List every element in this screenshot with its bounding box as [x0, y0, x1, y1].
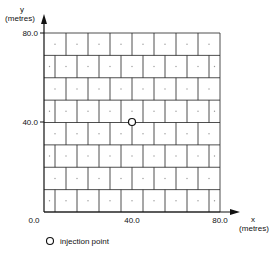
cell-centre-dot [208, 178, 209, 179]
legend-open-circle-icon [47, 238, 54, 245]
cell-centre-dot [49, 155, 50, 156]
x-tick-label-40: 40.0 [124, 216, 140, 225]
cell-centre-dot [87, 111, 88, 112]
cell-centre-dot [131, 66, 132, 67]
cell-centre-dot [208, 133, 209, 134]
cell-centre-dot [109, 200, 110, 201]
cell-centre-dot [120, 88, 121, 89]
cell-centre-dot [214, 111, 215, 112]
y-axis-label: y [20, 5, 24, 14]
cell-centre-dot [109, 66, 110, 67]
cell-centre-dot [153, 66, 154, 67]
cell-centre-dot [164, 178, 165, 179]
x-tick-label-0: 0.0 [28, 216, 40, 225]
legend-label: injection point [60, 237, 110, 246]
cell-centre-dot [175, 200, 176, 201]
y-tick-label-80: 80.0 [22, 29, 38, 38]
y-axis-arrow-icon [41, 14, 47, 24]
cell-centre-dot [49, 66, 50, 67]
cell-centre-dot [109, 111, 110, 112]
cell-centre-dot [142, 133, 143, 134]
cell-centre-dot [214, 66, 215, 67]
cell-centre-dot [175, 155, 176, 156]
cell-centre-dot [186, 88, 187, 89]
cell-centre-dot [164, 43, 165, 44]
cell-centre-dot [197, 66, 198, 67]
cell-centre-dot [164, 88, 165, 89]
cell-centre-dot [87, 66, 88, 67]
cell-centre-dot [164, 133, 165, 134]
cell-centre-dot [98, 88, 99, 89]
cell-centre-dot [214, 200, 215, 201]
cell-centre-dot [120, 178, 121, 179]
cell-centre-dot [65, 66, 66, 67]
x-axis-arrow-icon [230, 209, 240, 215]
cell-centre-dot [131, 111, 132, 112]
cell-centre-dot [98, 133, 99, 134]
cell-centre-dot [186, 133, 187, 134]
cell-centre-dot [109, 155, 110, 156]
cell-centre-dot [76, 133, 77, 134]
cell-centre-dot [49, 111, 50, 112]
grid-diagram: y (metres) 80.0 40.0 0.0 40.0 80.0 x (me… [0, 0, 275, 256]
cell-centre-dot [76, 88, 77, 89]
cell-centre-dot [186, 178, 187, 179]
cell-centre-dot [54, 133, 55, 134]
legend: injection point [47, 237, 110, 246]
cell-centre-dot [153, 200, 154, 201]
y-axis-unit: (metres) [5, 14, 35, 23]
cell-centre-dot [153, 111, 154, 112]
cell-centre-dot [142, 178, 143, 179]
cell-centre-dot [186, 43, 187, 44]
cell-centre-dot [131, 200, 132, 201]
injection-point-marker [129, 119, 136, 126]
cell-centre-dot [65, 155, 66, 156]
cell-centre-dot [49, 200, 50, 201]
x-axis-label: x [251, 215, 255, 224]
cell-centre-dot [87, 155, 88, 156]
cell-centre-dot [98, 178, 99, 179]
cell-centre-dot [208, 43, 209, 44]
cell-centre-dot [175, 66, 176, 67]
cell-centre-dot [197, 111, 198, 112]
cell-centre-dot [214, 155, 215, 156]
cell-centre-dot [76, 178, 77, 179]
cell-centre-dot [76, 43, 77, 44]
cell-centre-dot [142, 88, 143, 89]
y-tick-label-40: 40.0 [22, 118, 38, 127]
cell-centre-dot [98, 43, 99, 44]
cell-centre-dot [142, 43, 143, 44]
cell-centre-dot [120, 133, 121, 134]
cell-centre-dot [175, 111, 176, 112]
cell-centre-dot [65, 111, 66, 112]
cell-centre-dot [120, 43, 121, 44]
x-axis-unit: (metres) [239, 224, 269, 233]
x-tick-label-80: 80.0 [212, 216, 228, 225]
cell-centre-dot [54, 178, 55, 179]
cell-centre-dot [65, 200, 66, 201]
cell-centre-dot [87, 200, 88, 201]
cell-centre-dot [54, 88, 55, 89]
cell-centre-dot [153, 155, 154, 156]
cell-centre-dot [197, 155, 198, 156]
cell-centre-dot [208, 88, 209, 89]
cell-centre-dot [54, 43, 55, 44]
cell-centre-dot [197, 200, 198, 201]
cell-centre-dot [131, 155, 132, 156]
